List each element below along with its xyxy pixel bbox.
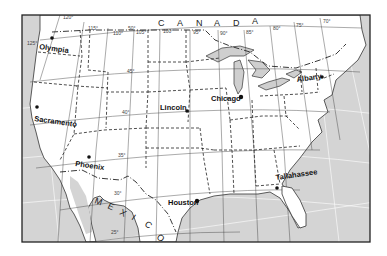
city-lincoln[interactable]: Lincoln: [160, 103, 189, 113]
svg-text:C: C: [158, 18, 165, 28]
svg-text:A: A: [252, 16, 258, 26]
city-houston[interactable]: Houston: [168, 198, 199, 207]
svg-text:30°: 30°: [114, 190, 122, 196]
svg-text:N: N: [196, 18, 203, 28]
svg-text:125°: 125°: [27, 40, 37, 46]
svg-text:70°: 70°: [323, 18, 331, 24]
svg-text:Lincoln: Lincoln: [160, 103, 187, 112]
svg-text:115°: 115°: [88, 25, 98, 31]
svg-text:A: A: [214, 18, 220, 28]
map-canvas: C A N A D A M E X I C O 125° 120° 115° 1…: [0, 0, 387, 256]
city-chicago[interactable]: Chicago: [211, 94, 243, 103]
svg-text:50°: 50°: [128, 25, 136, 31]
svg-text:120°: 120°: [63, 14, 73, 20]
svg-text:45°: 45°: [127, 68, 135, 74]
svg-text:90°: 90°: [220, 30, 228, 36]
svg-text:35°: 35°: [118, 152, 126, 158]
svg-text:100°: 100°: [163, 28, 173, 34]
capital-star-icon: [35, 105, 39, 109]
svg-text:Houston: Houston: [168, 198, 199, 207]
svg-text:85°: 85°: [246, 29, 254, 35]
capital-star-icon: [50, 36, 54, 40]
capital-star-icon: [275, 186, 279, 190]
svg-text:110°: 110°: [113, 30, 123, 36]
us-map: C A N A D A M E X I C O 125° 120° 115° 1…: [0, 0, 387, 256]
svg-text:A: A: [177, 18, 183, 28]
svg-text:40°: 40°: [122, 109, 130, 115]
svg-text:Chicago: Chicago: [211, 94, 241, 103]
svg-text:25°: 25°: [111, 229, 119, 235]
svg-text:95°: 95°: [193, 29, 201, 35]
svg-text:80°: 80°: [273, 25, 281, 31]
svg-text:D: D: [233, 18, 240, 28]
svg-text:105°: 105°: [136, 29, 146, 35]
svg-text:75°: 75°: [296, 22, 304, 28]
capital-star-icon: [87, 155, 91, 159]
